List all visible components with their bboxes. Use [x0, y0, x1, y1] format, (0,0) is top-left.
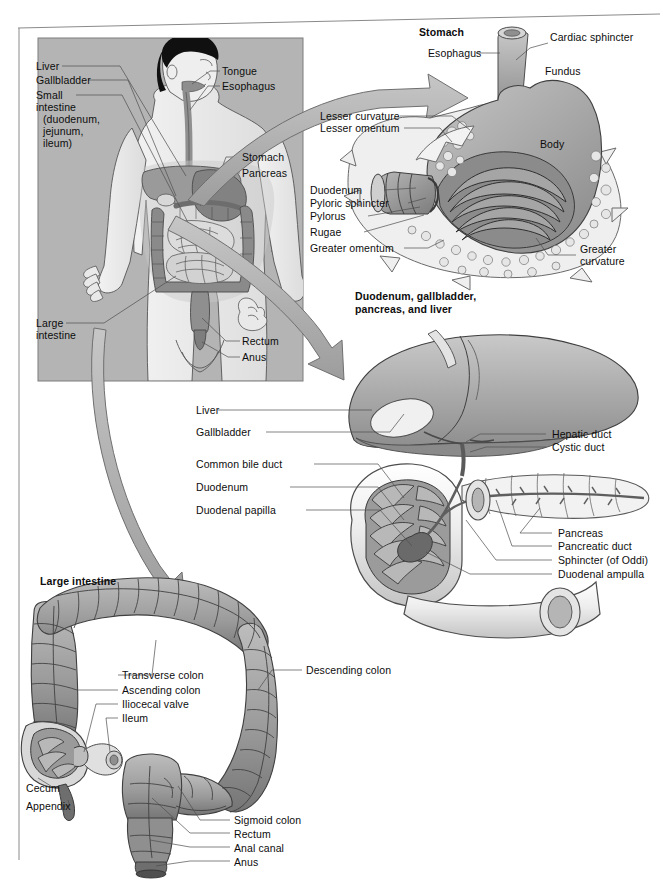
duodenum-heading-line2: pancreas, and liver — [355, 303, 452, 316]
duodenum-heading-line1: Duodenum, gallbladder, — [355, 290, 476, 303]
body-label-tongue: Tongue — [222, 65, 257, 78]
figure-page: Liver Gallbladder Small intestine (duode… — [0, 0, 663, 881]
duodenum-label-gallbladder: Gallbladder — [196, 426, 251, 439]
stomach-label-greater-omentum: Greater omentum — [310, 242, 394, 255]
duodenum-label-common-bile-duct: Common bile duct — [196, 458, 282, 471]
stomach-label-duodenum: Duodenum — [310, 184, 362, 197]
body-label-small-intestine-3: (duodenum, — [43, 113, 100, 126]
li-label-iliocecal-valve: Iliocecal valve — [122, 698, 189, 711]
body-label-liver: Liver — [36, 60, 59, 73]
body-label-small-intestine-2: intestine — [36, 101, 76, 114]
body-label-large-intestine-1: Large — [36, 317, 63, 330]
duodenum-label-sphincter-of-oddi: Sphincter (of Oddi) — [558, 554, 648, 567]
li-label-anus: Anus — [234, 856, 258, 869]
li-label-descending-colon: Descending colon — [306, 664, 391, 677]
duodenum-label-hepatic-duct: Hepatic duct — [552, 428, 612, 441]
stomach-label-pylorus: Pylorus — [310, 210, 346, 223]
li-label-sigmoid-colon: Sigmoid colon — [234, 814, 301, 827]
li-label-transverse-colon: Transverse colon — [122, 669, 204, 682]
body-label-small-intestine-4: jejunum, — [43, 125, 84, 138]
duodenum-label-duodenal-ampulla: Duodenal ampulla — [558, 568, 644, 581]
body-label-pancreas: Pancreas — [242, 167, 287, 180]
li-label-ileum: Ileum — [122, 712, 148, 725]
body-label-esophagus: Esophagus — [222, 80, 275, 93]
li-label-rectum: Rectum — [234, 828, 271, 841]
li-label-appendix: Appendix — [26, 800, 71, 813]
stomach-label-cardiac-sphincter: Cardiac sphincter — [550, 31, 633, 44]
stomach-label-rugae: Rugae — [310, 226, 341, 239]
duodenum-label-liver: Liver — [196, 404, 219, 417]
duodenum-label-pancreas: Pancreas — [558, 527, 603, 540]
stomach-label-pyloric-sphincter: Pyloric sphincter — [310, 197, 389, 210]
duodenum-label-pancreatic-duct: Pancreatic duct — [558, 540, 632, 553]
body-label-large-intestine-2: intestine — [36, 329, 76, 342]
body-label-gallbladder: Gallbladder — [36, 74, 91, 87]
stomach-label-fundus: Fundus — [545, 65, 581, 78]
body-label-anus: Anus — [242, 351, 266, 364]
body-label-small-intestine-5: ileum) — [43, 137, 72, 150]
body-label-rectum: Rectum — [242, 335, 279, 348]
stomach-heading: Stomach — [419, 26, 464, 39]
li-label-anal-canal: Anal canal — [234, 842, 284, 855]
duodenum-label-duodenal-papilla: Duodenal papilla — [196, 504, 276, 517]
body-label-small-intestine-1: Small — [36, 89, 63, 102]
li-label-cecum: Cecum — [26, 782, 60, 795]
stomach-label-lesser-omentum: Lesser omentum — [320, 122, 400, 135]
duodenum-label-duodenum: Duodenum — [196, 481, 248, 494]
large-intestine-heading: Large intestine — [40, 575, 116, 588]
stomach-label-body: Body — [540, 138, 564, 151]
li-label-ascending-colon: Ascending colon — [122, 684, 201, 697]
duodenum-label-cystic-duct: Cystic duct — [552, 441, 604, 454]
stomach-label-greater-curvature-2: curvature — [580, 255, 625, 268]
stomach-label-esophagus: Esophagus — [428, 47, 481, 60]
body-label-stomach: Stomach — [242, 151, 284, 164]
stomach-label-lesser-curvature: Lesser curvature — [320, 110, 400, 123]
stomach-label-greater-curvature-1: Greater — [580, 243, 616, 256]
